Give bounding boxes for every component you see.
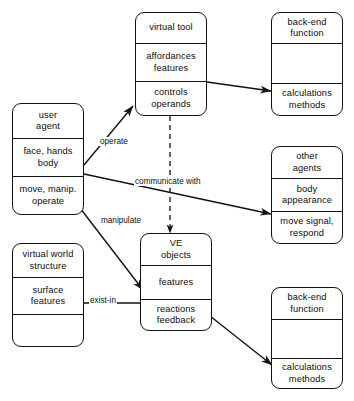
text-line: reactions — [157, 304, 196, 315]
text-line: VE — [170, 238, 183, 249]
text-line: function — [290, 28, 323, 39]
compartment-virtual-tool-attributes: affordances features — [136, 43, 206, 81]
text-line: move signal, — [280, 216, 333, 227]
text-line: objects — [161, 250, 191, 261]
class-box-virtual-tool[interactable]: virtual tool affordances features contro… — [135, 12, 207, 116]
class-box-user-agent[interactable]: user agent face, hands body move, manip.… — [12, 103, 84, 215]
text-line: features — [159, 277, 193, 288]
text-line: methods — [289, 374, 325, 385]
class-box-virtual-world-structure[interactable]: virtual world structure surface features — [12, 243, 84, 347]
compartment-backend-bottom-name: back-end function — [272, 288, 342, 319]
text-line: face, hands — [23, 146, 72, 157]
text-line: features — [154, 63, 188, 74]
compartment-virtual-world-operations — [13, 314, 83, 346]
text-line: agents — [293, 163, 322, 174]
text-line: other — [296, 151, 318, 162]
compartment-ve-objects-operations: reactions feedback — [141, 299, 211, 330]
text-line: operate — [32, 196, 64, 207]
compartment-other-agents-name: other agents — [272, 147, 342, 178]
text-line: methods — [289, 100, 325, 111]
class-box-back-end-function-top[interactable]: back-end function calculations methods — [271, 12, 343, 116]
class-diagram-canvas: virtual tool affordances features contro… — [0, 0, 354, 401]
compartment-user-agent-attributes: face, hands body — [13, 138, 83, 176]
text-line: controls — [154, 87, 187, 98]
compartment-virtual-world-attributes: surface features — [13, 277, 83, 314]
compartment-other-agents-operations: move signal, respond — [272, 211, 342, 243]
compartment-user-agent-name: user agent — [13, 104, 83, 138]
text-line: back-end — [287, 292, 326, 303]
class-box-back-end-function-bottom[interactable]: back-end function calculations methods — [271, 287, 343, 389]
compartment-user-agent-operations: move, manip. operate — [13, 176, 83, 214]
compartment-ve-objects-attributes: features — [141, 265, 211, 299]
text-line: user — [39, 110, 58, 121]
text-line: feedback — [157, 315, 196, 326]
compartment-backend-top-attributes — [272, 43, 342, 83]
text-line: function — [290, 304, 323, 315]
compartment-other-agents-attributes: body appearance — [272, 178, 342, 211]
text-line: move, manip. — [19, 184, 76, 195]
class-box-ve-objects[interactable]: VE objects features reactions feedback — [140, 233, 212, 331]
text-line: respond — [290, 228, 324, 239]
edge-label-exist-in: exist-in — [89, 296, 117, 305]
compartment-backend-top-operations: calculations methods — [272, 83, 342, 115]
text-line: back-end — [287, 17, 326, 28]
compartment-virtual-tool-name: virtual tool — [136, 13, 206, 43]
text-line: body — [38, 158, 59, 169]
text-line: body — [297, 184, 318, 195]
compartment-backend-top-name: back-end function — [272, 13, 342, 43]
compartment-backend-bottom-operations: calculations methods — [272, 358, 342, 388]
compartment-virtual-tool-operations: controls operands — [136, 81, 206, 115]
text-line: calculations — [282, 88, 332, 99]
text-line: virtual world — [23, 249, 74, 260]
text-line: operands — [151, 99, 191, 110]
text-line: affordances — [146, 51, 196, 62]
edge-operate — [84, 106, 133, 165]
edge-label-operate: operate — [99, 137, 129, 146]
edge-tool-backend — [207, 82, 271, 91]
text-line: structure — [29, 261, 66, 272]
edge-ve-backend — [210, 316, 272, 365]
compartment-backend-bottom-attributes — [272, 319, 342, 358]
text-line: surface — [32, 285, 63, 296]
text-line: features — [31, 296, 65, 307]
text-line: calculations — [282, 362, 332, 373]
text-line: appearance — [282, 195, 332, 206]
compartment-ve-objects-name: VE objects — [141, 234, 211, 265]
class-box-other-agents[interactable]: other agents body appearance move signal… — [271, 146, 343, 244]
compartment-virtual-world-name: virtual world structure — [13, 244, 83, 277]
text-line: agent — [36, 121, 60, 132]
edge-label-manipulate: manipulate — [100, 216, 142, 225]
text-line: virtual tool — [149, 22, 193, 33]
edge-label-communicate-with: communicate with — [134, 177, 202, 186]
